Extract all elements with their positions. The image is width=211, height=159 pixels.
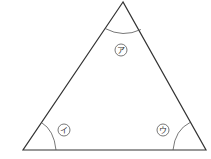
triangle-diagram: ア イ ウ [0,0,211,159]
label-text-u: ウ [159,126,167,135]
angle-label-bottom-right: ウ [157,124,169,136]
triangle-outline [23,2,206,150]
angle-label-top: ア [115,44,127,56]
label-text-i: イ [60,126,68,135]
angle-arc-bottom-left [42,123,57,150]
angle-arc-top [105,29,141,34]
label-text-a: ア [117,46,125,55]
angle-label-bottom-left: イ [58,124,70,136]
angle-arc-bottom-right [173,123,190,151]
